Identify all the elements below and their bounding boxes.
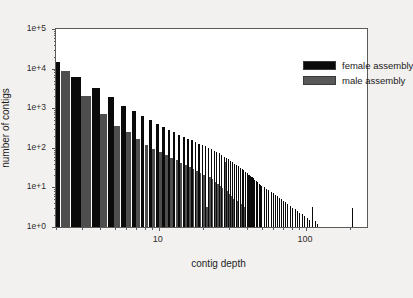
- legend-item: male assembly: [303, 75, 413, 86]
- x-axis-tick-minor: [203, 227, 204, 230]
- bar-female-depth-4: [92, 88, 99, 227]
- x-axis-tick-minor: [292, 227, 293, 230]
- bar-female-depth-58: [271, 192, 272, 227]
- bar-female-depth-98: [304, 216, 305, 227]
- bar-male-depth-29: [227, 191, 228, 227]
- y-axis-tick-label: 1e+5: [27, 23, 46, 33]
- bar-female-depth-3: [71, 77, 81, 227]
- bar-female-depth-60: [273, 193, 274, 227]
- x-axis-tick-minor: [229, 227, 230, 230]
- y-axis-tick-minor: [54, 89, 57, 90]
- bar-female-depth-56: [268, 190, 269, 227]
- x-axis-tick-minor: [82, 227, 83, 230]
- bar-male-depth-14: [180, 163, 182, 227]
- bar-female-depth-78: [290, 206, 291, 227]
- bar-female-depth-54: [266, 189, 267, 227]
- x-axis-tick-minor: [247, 227, 248, 230]
- bar-male-depth-31: [231, 196, 232, 227]
- y-axis-tick-minor: [54, 77, 57, 78]
- y-axis-tick-minor: [54, 189, 57, 190]
- bar-male-depth-7: [136, 139, 140, 227]
- y-axis-tick-minor: [54, 196, 57, 197]
- legend-label: male assembly: [342, 75, 405, 86]
- bar-male-depth-15: [185, 165, 187, 227]
- bar-male-depth-10: [159, 152, 162, 227]
- bar-female-depth-5: [108, 97, 114, 227]
- y-axis-tick-label: 1e+1: [27, 181, 46, 191]
- x-axis-tick-label: 100: [297, 234, 312, 244]
- bar-female-depth-62: [275, 195, 276, 227]
- bar-female-depth-90: [299, 213, 300, 227]
- bar-male-depth-21: [206, 207, 207, 227]
- y-axis-tick-minor: [54, 194, 57, 195]
- bar-female-depth-94: [302, 214, 303, 227]
- bar-male-depth-20: [203, 175, 204, 227]
- bar-male-depth-28: [225, 162, 226, 227]
- bar-male-depth-11: [165, 155, 168, 227]
- y-axis-tick-minor: [54, 124, 57, 125]
- y-axis-tick-minor: [54, 114, 57, 115]
- y-axis-tick-minor: [54, 160, 57, 161]
- y-axis-tick-minor: [54, 136, 57, 137]
- x-axis-tick-minor: [126, 227, 127, 230]
- bar-female-depth-205: [352, 208, 353, 227]
- bar-male-depth-27: [222, 188, 223, 227]
- bar-male-depth-34: [237, 201, 238, 227]
- bar-male-depth-30: [229, 194, 230, 227]
- y-axis-tick-minor: [54, 35, 57, 36]
- bar-female-depth-35: [238, 166, 239, 227]
- bar-female-depth-33: [234, 164, 235, 227]
- bar-male-depth-8: [145, 145, 149, 227]
- bar-male-depth-16: [189, 167, 191, 227]
- bar-male-depth-19: [200, 173, 202, 227]
- y-axis-tick-label: 1e+0: [27, 221, 46, 231]
- bar-female-depth-70: [283, 201, 284, 227]
- legend-item: female assembly: [303, 60, 413, 71]
- chart-legend: female assembly male assembly: [303, 60, 413, 86]
- x-axis-tick-minor: [136, 227, 137, 230]
- y-axis-tick-minor: [54, 164, 57, 165]
- bar-female-depth-72: [285, 202, 286, 227]
- bar-female-depth-110: [312, 207, 313, 227]
- bar-male-depth-23: [212, 179, 213, 227]
- bar-female-depth-115: [315, 221, 316, 227]
- y-axis-tick-minor: [54, 33, 57, 34]
- bar-male-depth-32: [233, 199, 234, 227]
- bar-male-depth-36: [241, 204, 242, 227]
- bar-male-depth-22: [209, 177, 210, 227]
- x-axis-tick-minor: [262, 227, 263, 230]
- x-axis-tick-minor: [283, 227, 284, 230]
- y-axis-tick-minor: [54, 191, 57, 192]
- bar-male-depth-17: [193, 169, 195, 227]
- y-axis-tick-minor: [54, 72, 57, 73]
- x-axis-tick-label: 10: [153, 234, 163, 244]
- y-axis-tick-minor: [54, 169, 57, 170]
- bar-male-depth-26: [220, 186, 221, 227]
- y-axis-tick-minor: [54, 117, 57, 118]
- y-axis-tick-minor: [54, 38, 57, 39]
- y-axis-tick-minor: [54, 215, 57, 216]
- x-axis-title-wrapper: contig depth: [0, 258, 382, 269]
- x-axis-title: contig depth: [191, 258, 246, 269]
- bar-female-depth-50: [261, 186, 262, 227]
- bar-male-depth-2: [61, 71, 70, 227]
- bar-female-depth-84: [295, 209, 296, 227]
- bar-female-depth-66: [279, 198, 280, 227]
- y-axis-tick-minor: [54, 50, 57, 51]
- bar-female-depth-2: [56, 62, 60, 227]
- x-axis-tick-minor: [115, 227, 116, 230]
- y-axis: 1e+01e+11e+21e+31e+41e+5: [0, 0, 55, 298]
- y-axis-tick-minor: [54, 45, 57, 46]
- y-axis-tick-minor: [54, 112, 57, 113]
- y-axis-tick-label: 1e+3: [27, 102, 46, 112]
- y-axis-tick-minor: [54, 157, 57, 158]
- y-axis-tick-minor: [54, 150, 57, 151]
- y-axis-tick-minor: [54, 70, 57, 71]
- plot-frame: female assembly male assembly: [55, 28, 368, 228]
- y-axis-tick-label: 1e+2: [27, 142, 46, 152]
- bar-female-depth-87: [297, 211, 298, 227]
- x-axis-tick-major: [306, 227, 307, 231]
- legend-swatch-male-icon: [303, 76, 336, 85]
- bar-male-depth-12: [170, 158, 172, 227]
